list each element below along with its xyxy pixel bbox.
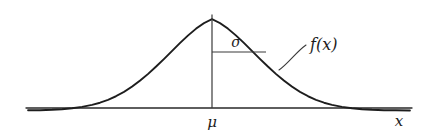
x-axis-label: x — [395, 112, 404, 130]
mean-label: μ — [207, 113, 217, 131]
sigma-label: σ — [231, 34, 241, 50]
function-label: f(x) — [309, 35, 337, 54]
gaussian-curve — [28, 19, 410, 110]
normal-distribution-figure: μ σ f(x) x — [0, 0, 426, 138]
function-leader-line — [279, 45, 306, 70]
figure-canvas: μ σ f(x) x — [0, 0, 426, 138]
